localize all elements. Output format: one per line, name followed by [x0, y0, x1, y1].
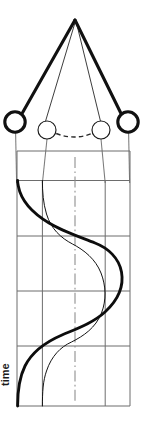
vertical-axis-label: time — [0, 363, 11, 386]
left-outer-pivot-circle — [5, 112, 25, 132]
diagram-canvas: time — [0, 0, 145, 429]
right-inner-pivot-circle — [92, 121, 110, 139]
right-outer-pivot-circle — [118, 112, 138, 132]
left-inner-pivot-circle — [38, 121, 56, 139]
figure-root: time — [0, 0, 145, 429]
background — [0, 0, 145, 429]
